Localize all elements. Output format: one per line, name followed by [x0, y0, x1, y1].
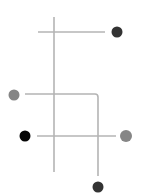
connector-diagram — [0, 0, 142, 195]
connector-nodes — [9, 27, 133, 193]
node-top-right-dot-icon — [112, 27, 123, 38]
node-bottom-left-dot-icon — [20, 131, 31, 142]
diagram-canvas — [0, 0, 142, 195]
middle-elbow-line — [25, 94, 98, 176]
node-bottom-dot-icon — [93, 182, 104, 193]
connector-lines — [25, 17, 116, 176]
node-bottom-right-dot-icon — [120, 130, 132, 142]
node-middle-left-dot-icon — [9, 90, 20, 101]
